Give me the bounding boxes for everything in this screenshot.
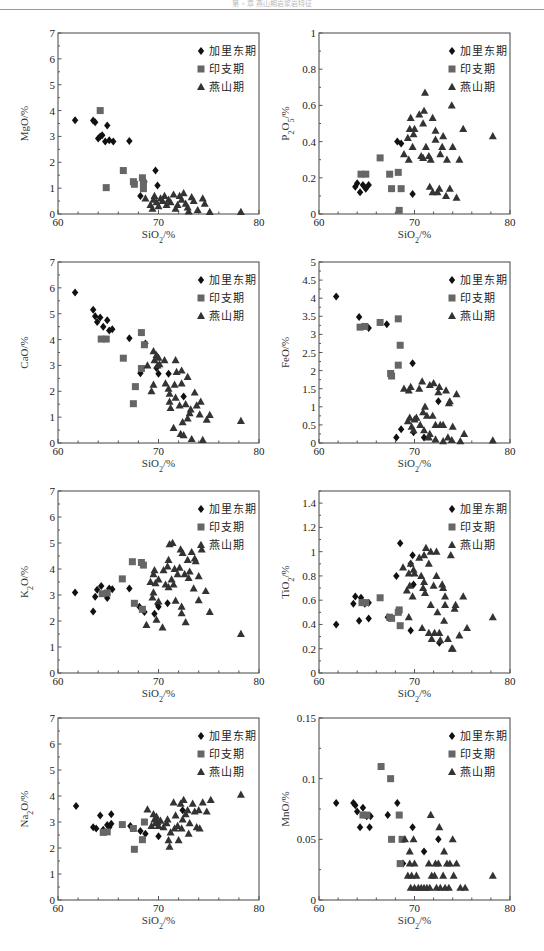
- triangle-marker: [422, 544, 430, 551]
- triangle-marker: [432, 547, 440, 554]
- triangle-marker: [191, 388, 199, 395]
- square-marker: [397, 860, 404, 867]
- legend-label: 印支期: [209, 748, 245, 761]
- legend-label: 燕山期: [209, 766, 245, 779]
- svg-text:SiO2/%: SiO2/%: [398, 228, 431, 245]
- square-marker: [141, 341, 148, 348]
- triangle-marker: [433, 608, 441, 615]
- triangle-marker: [417, 572, 425, 579]
- square-marker: [361, 323, 368, 330]
- y-tick-label: 5: [311, 256, 317, 268]
- legend: 加里东期印支期燕山期: [197, 730, 257, 779]
- y-tick-label: 4: [50, 790, 56, 802]
- triangle-marker: [453, 390, 461, 397]
- diamond-marker: [449, 732, 455, 740]
- diamond-marker: [126, 137, 132, 145]
- triangle-marker: [446, 397, 454, 404]
- svg-text:MnO/%: MnO/%: [279, 791, 291, 826]
- triangle-marker: [415, 385, 423, 392]
- x-tick-label: 80: [505, 445, 517, 457]
- legend: 加里东期印支期燕山期: [197, 45, 257, 94]
- diamond-marker: [449, 47, 455, 55]
- triangle-marker: [197, 541, 205, 548]
- y-tick-label: 0.4: [302, 618, 316, 630]
- square-marker: [396, 606, 403, 613]
- triangle-marker: [170, 190, 178, 197]
- y-tick-label: 4: [50, 105, 56, 117]
- diamond-marker: [357, 188, 363, 196]
- triangle-marker: [430, 581, 438, 588]
- triangle-marker: [182, 400, 190, 407]
- legend-label: 印支期: [209, 521, 245, 534]
- chart-feo: 60708000.511.522.533.544.55SiO2/%FeO/%加里…: [279, 256, 516, 474]
- triangle-marker: [436, 150, 444, 157]
- triangle-marker: [436, 636, 444, 643]
- y-tick-label: 0.1: [302, 773, 316, 785]
- triangle-marker: [444, 635, 452, 642]
- x-tick-label: 70: [409, 902, 421, 914]
- square-marker: [120, 355, 127, 362]
- diamond-marker: [152, 167, 158, 175]
- square-marker: [377, 594, 384, 601]
- legend-label: 印支期: [460, 292, 496, 305]
- triangle-marker: [448, 541, 456, 548]
- y-tick-label: 0.15: [297, 712, 317, 724]
- y-tick-label: 7: [50, 485, 56, 497]
- chart-tio2: 60708000.20.40.60.811.21.4SiO2/%TiO2/%加里…: [279, 491, 516, 704]
- svg-text:SiO2/%: SiO2/%: [398, 687, 431, 704]
- y-tick-label: 0.6: [302, 594, 316, 606]
- square-marker: [141, 819, 148, 826]
- y-tick-label: 0.2: [302, 643, 316, 655]
- triangle-marker: [460, 430, 468, 437]
- triangle-marker: [438, 143, 446, 150]
- square-marker: [388, 836, 395, 843]
- square-marker: [132, 383, 139, 390]
- square-marker: [97, 107, 104, 114]
- square-marker: [397, 622, 404, 629]
- svg-text:SiO2/%: SiO2/%: [142, 914, 175, 931]
- x-tick-label: 80: [254, 902, 266, 914]
- y-tick-label: 6: [50, 738, 56, 750]
- square-marker: [139, 836, 146, 843]
- triangle-marker: [435, 823, 443, 830]
- triangle-marker: [170, 424, 178, 431]
- triangle-marker: [400, 150, 408, 157]
- diamond-marker: [398, 425, 404, 433]
- y-tick-label: 0: [50, 667, 56, 679]
- y-tick-label: 1.2: [302, 521, 316, 533]
- triangle-marker: [432, 572, 440, 579]
- triangle-marker: [237, 791, 245, 798]
- triangle-marker: [418, 377, 426, 384]
- y-tick-label: 1.5: [302, 383, 316, 395]
- square-marker: [387, 775, 394, 782]
- series-2: [401, 811, 497, 891]
- triangle-marker: [406, 847, 414, 854]
- diamond-marker: [366, 823, 372, 831]
- triangle-marker: [142, 621, 150, 628]
- triangle-marker: [440, 617, 448, 624]
- svg-text:Na2O/%: Na2O/%: [18, 791, 35, 828]
- svg-text:K2O/%: K2O/%: [18, 566, 35, 598]
- y-tick-label: 2: [50, 842, 56, 854]
- triangle-marker: [175, 836, 183, 843]
- triangle-marker: [143, 361, 151, 368]
- diamond-marker: [97, 812, 103, 820]
- y-tick-label: 4: [50, 563, 56, 575]
- svg-text:SiO2/%: SiO2/%: [142, 457, 175, 474]
- square-marker: [388, 373, 395, 380]
- triangle-marker: [206, 608, 214, 615]
- diamond-marker: [357, 823, 363, 831]
- triangle-marker: [432, 136, 440, 143]
- triangle-marker: [149, 381, 157, 388]
- triangle-marker: [489, 613, 497, 620]
- y-tick-label: 1: [50, 641, 56, 653]
- square-marker: [377, 154, 384, 161]
- triangle-marker: [172, 356, 180, 363]
- legend-label: 燕山期: [460, 81, 496, 94]
- series-2: [400, 89, 497, 201]
- diamond-marker: [409, 823, 415, 831]
- plot-frame: [319, 33, 510, 214]
- triangle-marker: [429, 114, 437, 121]
- triangle-marker: [459, 125, 467, 132]
- diamond-marker: [333, 799, 339, 807]
